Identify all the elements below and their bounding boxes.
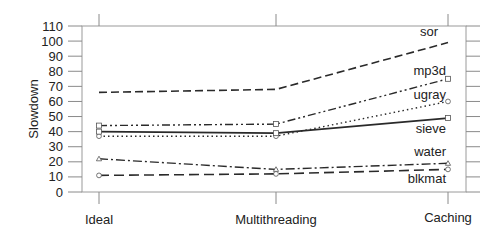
x-label-ideal: Ideal bbox=[85, 212, 113, 227]
series-label-sieve: sieve bbox=[416, 121, 446, 136]
square-marker-icon bbox=[274, 131, 279, 136]
y-tick-label: 10 bbox=[49, 169, 63, 184]
series-mp3d bbox=[97, 76, 451, 128]
y-tick-label: 50 bbox=[49, 109, 63, 124]
y-tick-label: 110 bbox=[42, 19, 63, 34]
series-label-water: water bbox=[413, 144, 446, 159]
circle-marker-icon bbox=[446, 99, 451, 104]
circle-marker-icon bbox=[446, 167, 451, 172]
series-label-sor: sor bbox=[420, 24, 439, 39]
plot-frame bbox=[82, 26, 466, 192]
y-tick-label: 90 bbox=[49, 49, 63, 64]
square-marker-icon bbox=[97, 129, 102, 134]
square-marker-icon bbox=[97, 123, 102, 128]
y-tick-label: 20 bbox=[49, 154, 63, 169]
series-label-ugray: ugray bbox=[413, 87, 446, 102]
y-tick-label: 60 bbox=[49, 94, 63, 109]
slowdown-line-chart: Slowdown 0102030405060708090100110 Ideal… bbox=[0, 0, 502, 239]
y-tick-label: 100 bbox=[41, 34, 63, 49]
y-tick-label: 40 bbox=[49, 124, 63, 139]
y-tick-label: 30 bbox=[49, 139, 63, 154]
y-axis-title: Slowdown bbox=[26, 79, 41, 138]
square-marker-icon bbox=[446, 76, 451, 81]
series-line-water bbox=[99, 159, 448, 170]
x-label-multithreading: Multithreading bbox=[235, 212, 317, 227]
square-marker-icon bbox=[446, 116, 451, 121]
series-sor bbox=[99, 43, 448, 93]
y-axis-ticks-right bbox=[466, 26, 480, 192]
series-water bbox=[96, 156, 450, 171]
x-label-caching: Caching bbox=[424, 210, 472, 225]
y-tick-label: 70 bbox=[49, 79, 63, 94]
circle-marker-icon bbox=[274, 171, 279, 176]
series-line-mp3d bbox=[99, 79, 448, 126]
y-tick-label: 0 bbox=[56, 185, 63, 200]
series-label-blkmat: blkmat bbox=[408, 171, 447, 186]
y-axis-ticks: 0102030405060708090100110 bbox=[41, 19, 82, 200]
series-label-mp3d: mp3d bbox=[413, 63, 446, 78]
y-tick-label: 80 bbox=[49, 64, 63, 79]
series-line-sor bbox=[99, 43, 448, 93]
series-lines bbox=[96, 43, 450, 178]
square-marker-icon bbox=[274, 122, 279, 127]
circle-marker-icon bbox=[97, 173, 102, 178]
